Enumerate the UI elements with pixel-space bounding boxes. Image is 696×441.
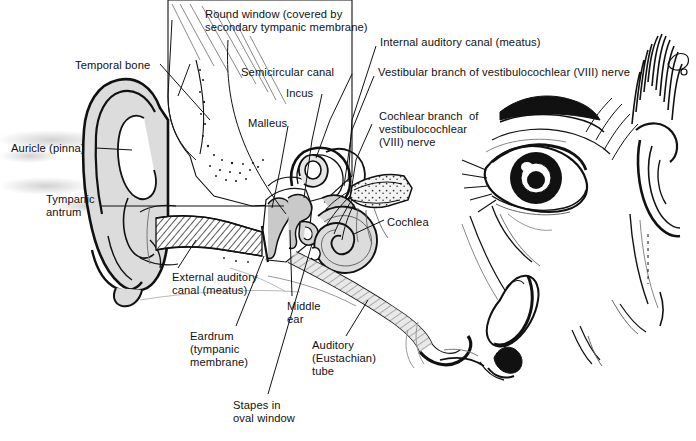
label-malleus: Malleus: [248, 117, 287, 130]
label-auditory-tube: Auditory (Eustachian) tube: [312, 339, 376, 379]
label-auricle-pinna: Auricle (pinna): [11, 142, 85, 155]
label-tympanic-antrum: Tympanic antrum: [46, 193, 95, 219]
label-stapes-oval-window: Stapes in oval window: [233, 399, 295, 425]
label-incus: Incus: [286, 87, 313, 100]
label-round-window: Round window (covered by secondary tympa…: [205, 8, 368, 34]
label-cochlea: Cochlea: [387, 216, 429, 229]
label-middle-ear: Middle ear: [287, 300, 321, 326]
label-eardrum: Eardrum (tympanic membrane): [190, 330, 248, 370]
label-semicircular-canal: Semicircular canal: [241, 66, 334, 79]
figure-canvas: Round window (covered by secondary tympa…: [0, 0, 696, 441]
label-internal-auditory-canal: Internal auditory canal (meatus): [380, 36, 541, 49]
round-window-shape: [311, 247, 320, 260]
label-vestibular-branch: Vestibular branch of vestibulocochlear (…: [378, 66, 630, 79]
label-temporal-bone: Temporal bone: [75, 59, 150, 72]
label-external-auditory-canal: External auditory canal (meatus): [172, 271, 258, 297]
cochlea-shape: [314, 207, 377, 273]
label-cochlear-branch: Cochlear branch of vestibulocochlear (VI…: [379, 110, 479, 150]
